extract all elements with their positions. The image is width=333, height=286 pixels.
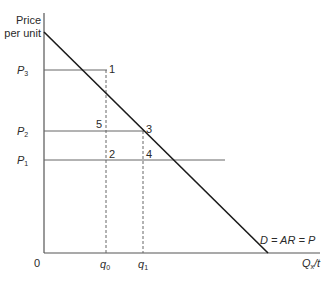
x-axis-label: Qx/t <box>302 257 320 273</box>
demand-curve-label: D = AR = P <box>260 234 315 246</box>
y-axis-label-line1: Price <box>0 14 41 26</box>
point-label-2: 2 <box>109 148 115 160</box>
point-label-3: 3 <box>146 123 152 135</box>
quantity-label-q0: q0 <box>100 258 110 274</box>
price-label-p1: P1 <box>17 154 28 170</box>
point-label-5: 5 <box>96 118 102 130</box>
point-label-4: 4 <box>146 148 152 160</box>
price-label-p2: P2 <box>17 125 28 141</box>
demand-curve <box>44 32 268 253</box>
origin-label: 0 <box>34 257 40 269</box>
point-label-1: 1 <box>109 63 115 75</box>
price-label-p3: P3 <box>17 64 28 80</box>
y-axis-label-line2: per unit <box>0 27 41 39</box>
quantity-label-q1: q1 <box>138 258 148 274</box>
